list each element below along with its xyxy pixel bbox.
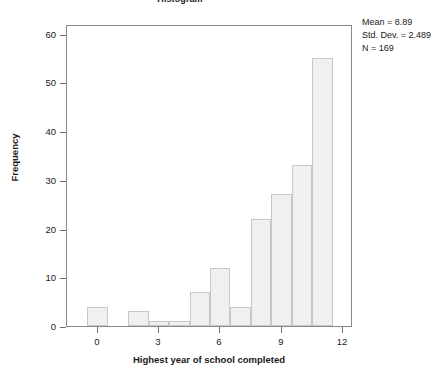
x-axis-tick-label: 6: [199, 336, 239, 347]
x-axis-tick-label: 0: [77, 336, 117, 347]
histogram-bar: [169, 321, 189, 326]
histogram-bar: [128, 311, 148, 326]
x-axis-tick-label: 9: [261, 336, 301, 347]
y-axis-tick-label: 30: [0, 175, 56, 186]
x-axis-tick: [342, 327, 343, 333]
y-axis-tick-label: 10: [0, 272, 56, 283]
histogram-bar: [149, 321, 169, 326]
x-axis-tick: [158, 327, 159, 333]
histogram-bar: [210, 268, 230, 326]
statistics-line: Std. Dev. = 2.489: [362, 29, 442, 42]
histogram-bar: [230, 307, 250, 326]
histogram-bar: [271, 194, 291, 326]
histogram-bar: [251, 219, 271, 326]
plot-area: [66, 25, 352, 327]
bars-layer: [67, 26, 351, 326]
y-axis-tick-label: 60: [0, 29, 56, 40]
x-axis-tick-label: 3: [138, 336, 178, 347]
y-axis-tick-label: 20: [0, 224, 56, 235]
y-axis-tick-label: 50: [0, 77, 56, 88]
x-axis-tick: [97, 327, 98, 333]
x-axis-tick: [219, 327, 220, 333]
statistics-line: Mean = 8.89: [362, 16, 442, 29]
statistics-annotation: Mean = 8.89Std. Dev. = 2.489N = 169: [362, 16, 442, 55]
statistics-line: N = 169: [362, 42, 442, 55]
y-axis-tick: [60, 327, 66, 328]
histogram-bar: [292, 165, 312, 326]
histogram-bar: [190, 292, 210, 326]
chart-title: Histogram: [0, 0, 360, 4]
x-axis-tick-label: 12: [322, 336, 362, 347]
histogram-bar: [87, 307, 107, 326]
x-axis-title: Highest year of school completed: [66, 354, 352, 365]
y-axis-tick-label: 40: [0, 126, 56, 137]
x-axis-tick: [281, 327, 282, 333]
histogram-bar: [312, 58, 332, 326]
histogram-screenshot: Histogram Frequency 0102030405060 036912…: [0, 0, 443, 373]
y-axis-tick-label: 0: [0, 321, 56, 332]
